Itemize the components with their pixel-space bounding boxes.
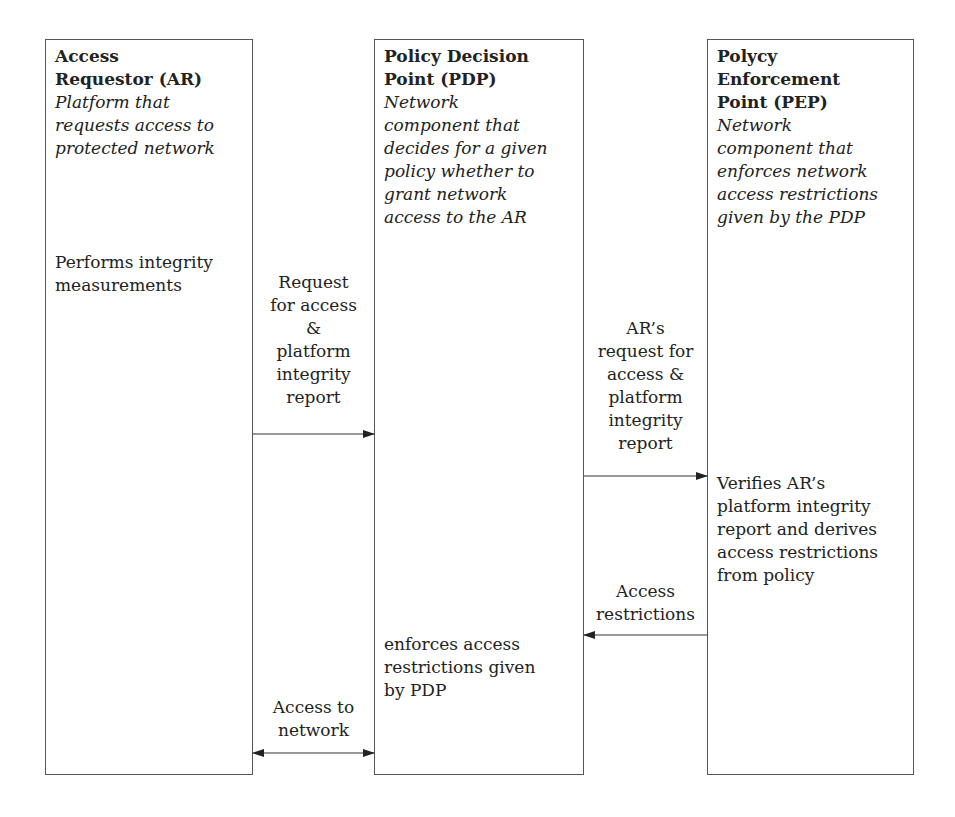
message-arrows xyxy=(0,0,955,817)
